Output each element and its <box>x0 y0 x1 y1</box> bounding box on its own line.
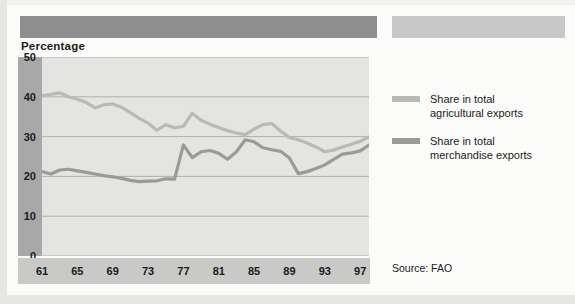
series-line-merchandise <box>42 140 369 182</box>
chart-legend: Share in total agricultural exports Shar… <box>392 92 567 176</box>
x-tick-label: 85 <box>248 265 260 277</box>
chart-container: 01020304050 <box>18 57 370 257</box>
x-tick-label: 97 <box>354 265 366 277</box>
legend-label-merchandise-line2: merchandise exports <box>430 148 532 162</box>
x-tick-label: 93 <box>319 265 331 277</box>
x-tick-label: 61 <box>36 265 48 277</box>
series-line-agricultural <box>42 93 369 152</box>
y-tick-label: 10 <box>24 210 36 222</box>
legend-swatch-agricultural <box>392 96 420 102</box>
page-edge-bottom <box>0 295 575 304</box>
y-tick-label: 40 <box>24 91 36 103</box>
legend-label-agricultural: Share in total agricultural exports <box>430 92 523 120</box>
legend-label-merchandise: Share in total merchandise exports <box>430 134 532 162</box>
x-tick-label: 65 <box>71 265 83 277</box>
chart-svg <box>42 57 369 256</box>
legend-swatch-merchandise <box>392 138 420 144</box>
x-tick-label: 89 <box>283 265 295 277</box>
x-tick-label: 73 <box>142 265 154 277</box>
x-tick-label: 69 <box>107 265 119 277</box>
legend-label-merchandise-line1: Share in total <box>430 134 532 148</box>
legend-label-agricultural-line2: agricultural exports <box>430 106 523 120</box>
legend-label-agricultural-line1: Share in total <box>430 92 523 106</box>
y-tick-label: 50 <box>24 51 36 63</box>
x-tick-label: 81 <box>213 265 225 277</box>
source-note: Source: FAO <box>392 262 452 274</box>
legend-item-agricultural: Share in total agricultural exports <box>392 92 567 120</box>
x-axis-band: 61656973778185899397 <box>18 258 370 284</box>
legend-item-merchandise: Share in total merchandise exports <box>392 134 567 162</box>
plot-area <box>42 57 369 256</box>
title-banner-secondary <box>392 16 565 38</box>
figure-page: Percentage 01020304050 61656973778185899… <box>0 0 575 304</box>
y-tick-label: 30 <box>24 131 36 143</box>
page-edge-left <box>0 0 7 304</box>
y-tick-label: 20 <box>24 170 36 182</box>
x-tick-label: 77 <box>177 265 189 277</box>
title-banner-primary <box>20 16 377 38</box>
page-edge-top <box>0 0 575 5</box>
